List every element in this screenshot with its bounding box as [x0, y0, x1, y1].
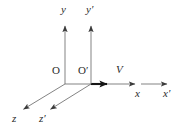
y-axis-label: y	[61, 4, 66, 15]
z-axis-label: z	[12, 113, 16, 124]
origin-label: O	[52, 65, 60, 76]
z-prime-axis-label: z′	[39, 113, 46, 124]
x-prime-axis-label: x′	[163, 88, 170, 99]
z-axis-line	[24, 84, 66, 109]
velocity-label: V	[116, 64, 123, 75]
x-axis-label: x	[135, 88, 140, 99]
coordinate-axes-figure: y y′ O O′ V x x′ z z′	[0, 0, 181, 131]
y-prime-axis-label: y′	[86, 4, 93, 15]
origin-prime-label: O′	[78, 65, 88, 76]
z-prime-axis-line	[51, 84, 92, 109]
axes-drawing	[0, 0, 181, 131]
